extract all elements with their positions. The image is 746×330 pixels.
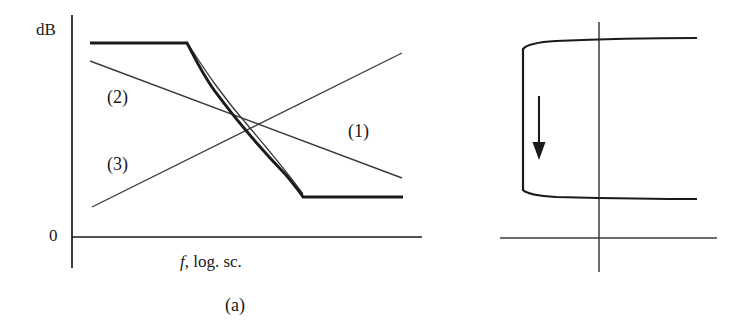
- curve-label-2: (2): [107, 88, 128, 106]
- figure-root: dB 0 (1) (2) (3) f, log. sc. (a): [0, 0, 746, 330]
- panel-a-bode-magnitude: dB 0 (1) (2) (3) f, log. sc. (a): [0, 0, 460, 330]
- curve-label-3: (3): [107, 155, 128, 173]
- curve-2-descending-asymptote: [90, 61, 402, 178]
- panel-a-caption: (a): [225, 296, 245, 314]
- x-axis-label: f, log. sc.: [180, 253, 242, 270]
- curve-label-1: (1): [348, 122, 369, 140]
- panel-b-l-plane: L-plane f −180° (b): [460, 0, 746, 330]
- frequency-arrow-head: [533, 142, 546, 160]
- l-plane-contour: [523, 38, 697, 199]
- y-axis-label-db: dB: [36, 21, 56, 38]
- panel-a-plot: [0, 0, 460, 330]
- x-axis-label-rest: , log. sc.: [185, 252, 242, 271]
- y-axis-origin-label: 0: [49, 227, 58, 244]
- panel-b-plot: [460, 0, 746, 330]
